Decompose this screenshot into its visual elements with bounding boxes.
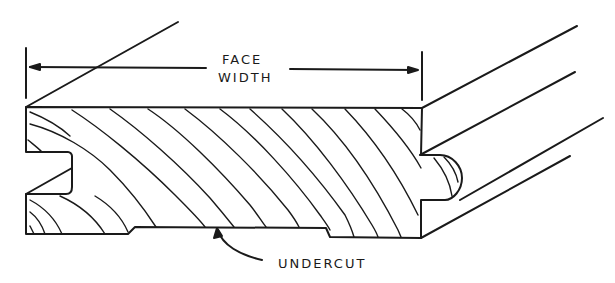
undercut-leader-line xyxy=(218,230,262,260)
face-width-label-line1: FACE xyxy=(222,52,262,67)
dimension-line-right xyxy=(290,69,416,70)
bottom-right-edge xyxy=(421,156,570,238)
face-width-label-line2: WIDTH xyxy=(218,70,272,85)
dimension-line-left xyxy=(30,67,206,68)
groove-lower-lip xyxy=(26,168,72,194)
tongue-bottom-edge xyxy=(460,118,603,200)
tongue-top-edge xyxy=(420,72,575,155)
board-profile-outline xyxy=(26,107,462,238)
undercut-label: UNDERCUT xyxy=(278,256,366,271)
arrowhead-right xyxy=(408,67,418,73)
flooring-profile-diagram: FACE WIDTH UNDERCUT xyxy=(0,0,615,283)
arrowhead-left xyxy=(30,64,40,70)
top-right-edge xyxy=(422,26,577,108)
undercut-arrowhead xyxy=(214,228,222,238)
top-left-edge xyxy=(26,22,178,107)
wood-grain-hatching xyxy=(28,109,458,237)
